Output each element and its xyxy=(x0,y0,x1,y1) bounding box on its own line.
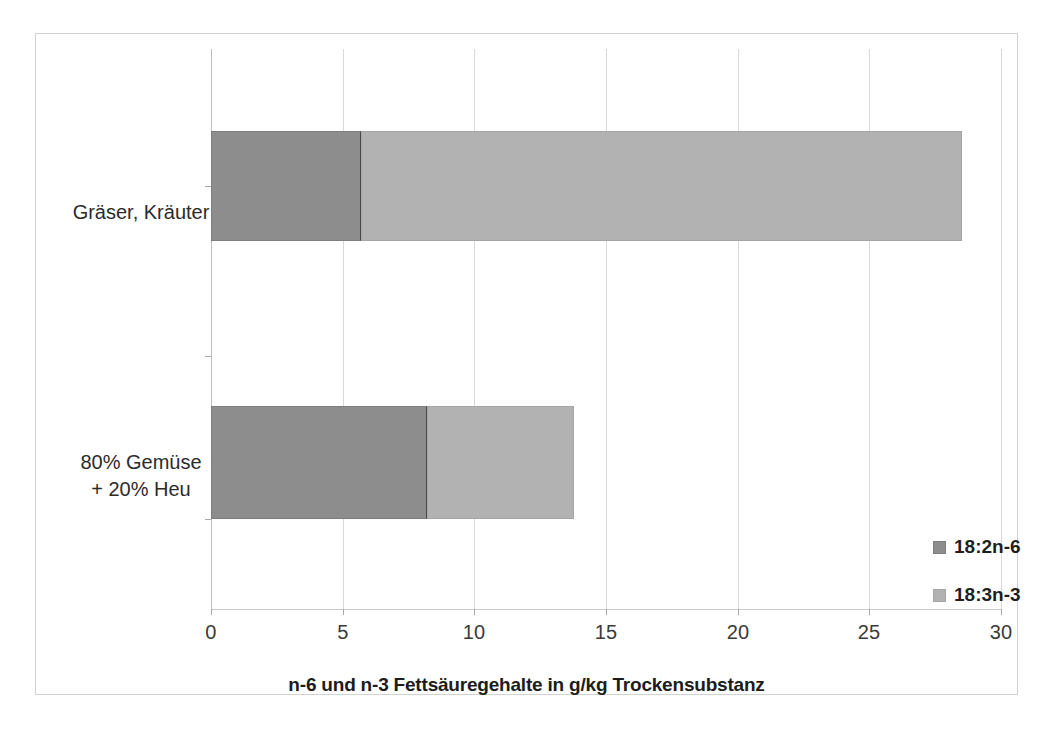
x-axis-label-20: 20 xyxy=(708,621,768,644)
bar-segment-18-2n-6[interactable] xyxy=(211,406,427,519)
bar-segment-18-2n-6[interactable] xyxy=(211,131,361,241)
x-axis-tick-15 xyxy=(606,609,607,615)
chart-legend: 18:2n-6 18:3n-3 xyxy=(933,537,1021,633)
bar-row-graeser-kraeuter[interactable] xyxy=(211,131,962,241)
gridline-30 xyxy=(1001,49,1002,609)
x-axis-tick-25 xyxy=(869,609,870,615)
y-axis-tick-2 xyxy=(205,519,211,520)
x-axis-label-10: 10 xyxy=(444,621,504,644)
legend-swatch-icon xyxy=(933,541,946,554)
x-axis-tick-5 xyxy=(343,609,344,615)
y-axis-tick-1 xyxy=(205,356,211,357)
category-label-0: Gräser, Kräuter xyxy=(46,199,236,226)
x-axis-tick-20 xyxy=(738,609,739,615)
legend-label: 18:2n-6 xyxy=(954,536,1021,558)
bar-segment-18-3n-3[interactable] xyxy=(427,406,574,519)
y-axis-tick-0 xyxy=(205,186,211,187)
x-axis-title: n-6 und n-3 Fettsäuregehalte in g/kg Tro… xyxy=(36,674,1017,696)
bar-row-gemuese-heu[interactable] xyxy=(211,406,574,519)
legend-item-18-2n-6[interactable]: 18:2n-6 xyxy=(933,537,1021,557)
x-axis-label-15: 15 xyxy=(576,621,636,644)
x-axis-label-5: 5 xyxy=(313,621,373,644)
plot-area: 0 5 10 15 20 25 30 xyxy=(211,49,1001,609)
bar-segment-18-3n-3[interactable] xyxy=(361,131,962,241)
x-axis-label-25: 25 xyxy=(839,621,899,644)
x-axis-label-0: 0 xyxy=(181,621,241,644)
category-label-1: 80% Gemüse + 20% Heu xyxy=(46,449,236,503)
chart-frame: Gräser, Kräuter 80% Gemüse + 20% Heu xyxy=(35,33,1018,695)
x-axis-tick-10 xyxy=(474,609,475,615)
x-axis-tick-0 xyxy=(211,609,212,615)
legend-label: 18:3n-3 xyxy=(954,584,1021,606)
legend-item-18-3n-3[interactable]: 18:3n-3 xyxy=(933,585,1021,605)
legend-swatch-icon xyxy=(933,589,946,602)
